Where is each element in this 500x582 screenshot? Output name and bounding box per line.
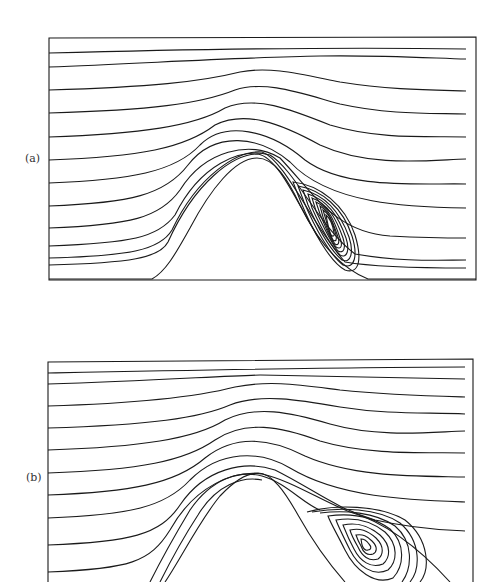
hill-boundary-b — [165, 473, 345, 582]
domain-frame-b — [48, 359, 473, 582]
vortex-b — [307, 507, 426, 582]
streamline-plot-b — [0, 0, 500, 582]
